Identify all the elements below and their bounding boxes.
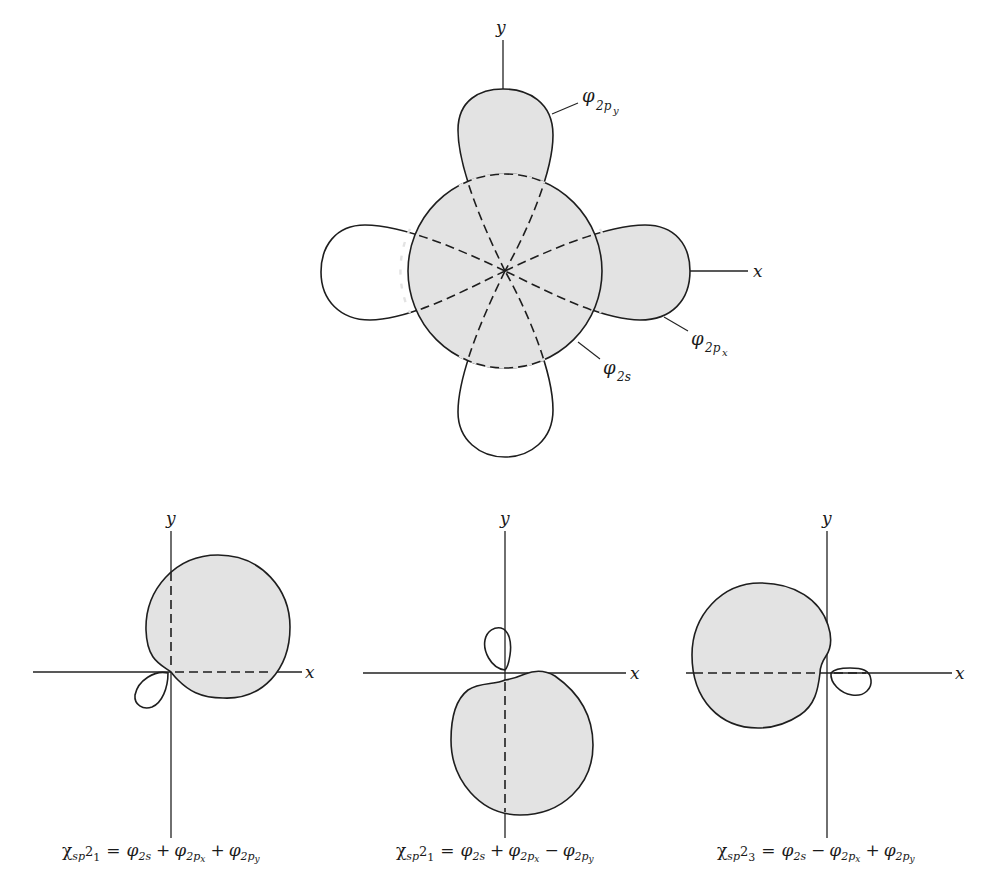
svg-text:2s: 2s: [616, 370, 631, 384]
panel2-y-label: y: [499, 508, 510, 528]
top-figure: y x φ 2p y φ 2p x φ 2s: [321, 17, 763, 457]
svg-text:χsp21=φ2s+φ2px+φ2py: χsp21=φ2s+φ2px+φ2py: [62, 840, 261, 864]
phi-2py-leader: [552, 103, 578, 114]
phi-2s-label: φ 2s: [603, 357, 631, 384]
caption-2: χsp21=φ2s+φ2px−φ2py: [396, 840, 595, 864]
svg-text:y: y: [612, 105, 619, 116]
svg-text:χsp21=φ2s+φ2px−φ2py: χsp21=φ2s+φ2px−φ2py: [396, 840, 595, 864]
panel1-minor-lobe: [135, 672, 168, 707]
caption-1: χsp21=φ2s+φ2px+φ2py: [62, 840, 261, 864]
panel3-y-label: y: [821, 508, 832, 528]
top-y-axis-label: y: [495, 17, 506, 37]
svg-text:2p: 2p: [704, 341, 721, 355]
svg-text:2p: 2p: [595, 99, 612, 113]
orbital-diagram: y x φ 2p y φ 2p x φ 2s y x y: [0, 0, 990, 888]
panel3-main-lobe: [692, 583, 831, 728]
hybrid-panel-2: y x: [363, 508, 640, 838]
panel1-x-label: x: [305, 662, 315, 682]
hybrid-panel-3: y x: [686, 508, 965, 838]
hybrid-panel-1: y x: [33, 508, 315, 838]
phi-2px-leader: [664, 317, 688, 331]
panel3-minor-lobe: [831, 668, 871, 695]
panel1-y-label: y: [165, 508, 176, 528]
panel2-main-lobe: [451, 671, 593, 815]
svg-text:x: x: [722, 347, 728, 358]
phi-2px-label: φ 2p x: [691, 328, 728, 358]
svg-text:φ: φ: [691, 328, 704, 349]
top-x-axis-label: x: [753, 261, 763, 281]
phi-2s-leader: [578, 342, 600, 359]
svg-text:χsp23=φ2s−φ2px+φ2py: χsp23=φ2s−φ2px+φ2py: [717, 840, 916, 864]
panel3-x-label: x: [955, 663, 965, 683]
panel2-x-label: x: [630, 663, 640, 683]
svg-text:φ: φ: [603, 357, 616, 378]
panel2-minor-lobe: [485, 628, 511, 670]
caption-3: χsp23=φ2s−φ2px+φ2py: [717, 840, 916, 864]
svg-text:φ: φ: [582, 85, 595, 106]
phi-2py-label: φ 2p y: [582, 85, 619, 116]
